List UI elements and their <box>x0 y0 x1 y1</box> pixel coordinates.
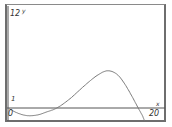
y-tick-label-max: 12 <box>10 10 20 18</box>
y-tick-label-one: 1 <box>11 96 15 103</box>
plot-area <box>0 0 172 127</box>
x-tick-label-zero: 0 <box>8 110 13 118</box>
y-axis-label: y <box>22 8 26 14</box>
x-axis-label: x <box>156 101 160 107</box>
x-tick-label-max: 20 <box>149 110 159 118</box>
function-curve <box>8 71 144 121</box>
